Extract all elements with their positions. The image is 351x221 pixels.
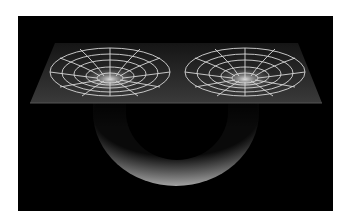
wormhole-illustration [0,0,351,221]
wormhole-tube [93,103,259,186]
